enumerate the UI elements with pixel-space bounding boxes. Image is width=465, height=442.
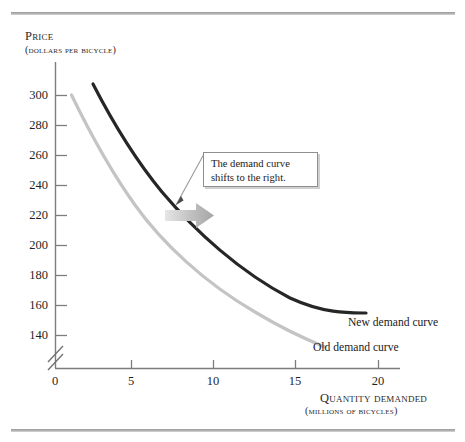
- x-axis-ticks: [132, 360, 379, 368]
- new-demand-curve: [93, 84, 366, 313]
- callout-text-line2: shifts to the right.: [211, 171, 311, 185]
- new-demand-curve-label: New demand curve: [348, 316, 438, 329]
- old-demand-curve-label: Old demand curve: [313, 341, 399, 354]
- y-axis-ticks: [56, 96, 67, 336]
- callout-leader-line: [176, 154, 204, 205]
- callout-text-line1: The demand curve: [211, 157, 311, 171]
- figure-container: Price (dollars per bicycle) Quantity dem…: [0, 0, 465, 442]
- callout-box: The demand curve shifts to the right.: [203, 152, 318, 187]
- plot-area: [0, 0, 465, 442]
